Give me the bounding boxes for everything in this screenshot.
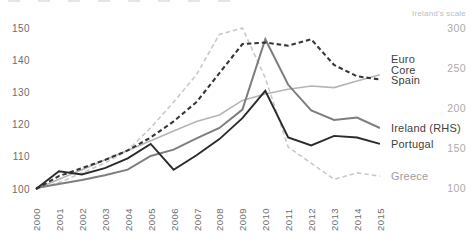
data-series-lines bbox=[36, 28, 380, 189]
line-chart-canvas: 150140130120110100 300250200150100 Irela… bbox=[0, 0, 473, 249]
right-tick-label: 300 bbox=[447, 22, 466, 34]
year-label: 2008 bbox=[214, 208, 225, 231]
year-label: 2001 bbox=[54, 208, 65, 231]
year-label: 2014 bbox=[352, 208, 363, 231]
left-tick-label: 100 bbox=[12, 184, 30, 195]
left-tick-label: 110 bbox=[13, 151, 30, 162]
left-tick-label: 150 bbox=[12, 23, 30, 34]
right-axis-ticks: 300250200150100 bbox=[447, 22, 466, 194]
series-label-text: Greece bbox=[391, 170, 428, 182]
left-tick-label: 130 bbox=[12, 87, 30, 98]
right-tick-label: 150 bbox=[447, 142, 466, 154]
year-label: 2000 bbox=[31, 208, 42, 231]
series-label-text: Ireland (RHS) bbox=[391, 122, 461, 134]
year-label: 2004 bbox=[123, 208, 134, 231]
year-label: 2011 bbox=[283, 209, 294, 231]
series-line-portugal bbox=[36, 91, 380, 189]
year-label: 2006 bbox=[169, 208, 180, 231]
series-line-euro-core bbox=[36, 75, 380, 189]
year-label: 2003 bbox=[100, 208, 111, 231]
year-label: 2005 bbox=[146, 208, 157, 231]
year-label: 2002 bbox=[77, 208, 88, 231]
right-axis-title: Ireland's scale bbox=[412, 9, 466, 18]
house-price-index-chart: 150140130120110100 300250200150100 Irela… bbox=[0, 0, 473, 249]
right-tick-label: 200 bbox=[447, 102, 466, 114]
year-label: 2015 bbox=[375, 208, 386, 231]
left-tick-label: 120 bbox=[12, 119, 30, 130]
left-axis-ticks: 150140130120110100 bbox=[12, 23, 30, 195]
right-tick-label: 100 bbox=[447, 182, 466, 194]
year-label: 2010 bbox=[260, 208, 271, 231]
series-label-text: Portugal bbox=[391, 138, 434, 150]
series-line-greece bbox=[36, 28, 380, 189]
right-tick-label: 250 bbox=[447, 62, 466, 74]
year-label: 2009 bbox=[237, 208, 248, 231]
year-label: 2007 bbox=[192, 208, 203, 231]
left-tick-label: 140 bbox=[12, 55, 30, 66]
year-label: 2013 bbox=[329, 208, 340, 231]
series-line-spain bbox=[36, 39, 380, 189]
x-axis-year-labels: 2000200120022003200420052006200720082009… bbox=[31, 208, 386, 231]
series-label-text: Spain bbox=[391, 74, 420, 86]
year-label: 2012 bbox=[306, 208, 317, 231]
